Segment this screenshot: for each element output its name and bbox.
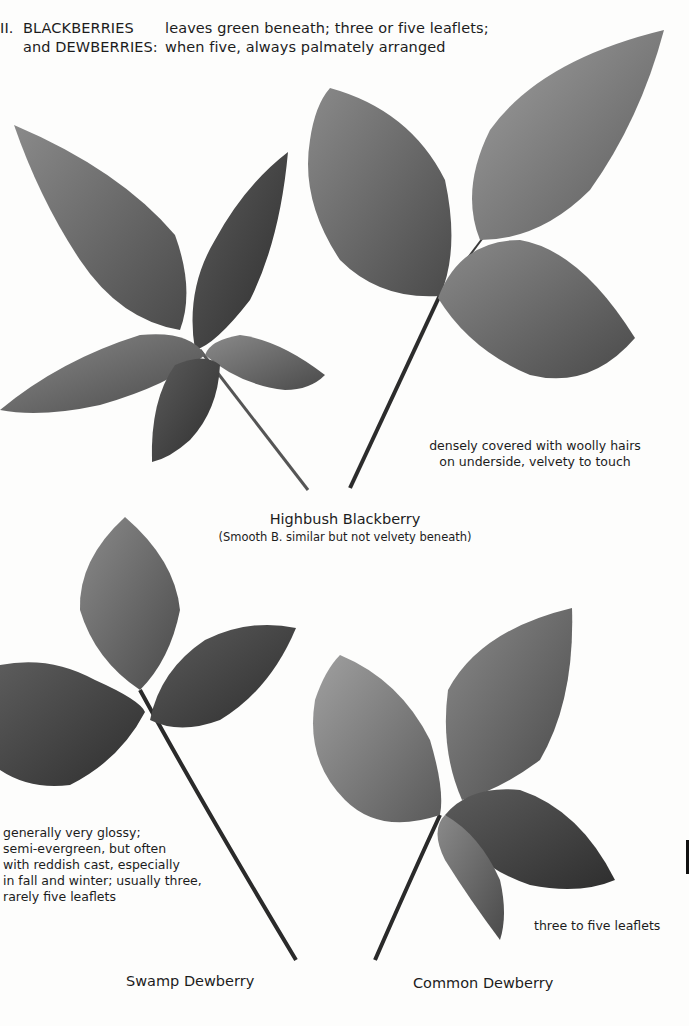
group-title-line1: BLACKBERRIES <box>23 19 134 37</box>
common-dewberry-leaf <box>313 608 615 960</box>
highbush-blackberry-subtitle: (Smooth B. similar but not velvety benea… <box>180 530 510 544</box>
highbush-blackberry-leaf-right <box>308 30 664 488</box>
section-number: II. <box>0 19 13 37</box>
swamp-note-line: with reddish cast, especially <box>3 857 202 873</box>
common-dewberry-note: three to five leaflets <box>534 918 660 934</box>
swamp-note-line: rarely five leaflets <box>3 889 202 905</box>
highbush-blackberry-title: Highbush Blackberry <box>180 511 510 527</box>
group-description-line2: when five, always palmately arranged <box>165 38 446 56</box>
swamp-note-line: semi-evergreen, but often <box>3 841 202 857</box>
group-title-line2: and DEWBERRIES: <box>23 38 158 56</box>
highbush-note: densely covered with woolly hairs on und… <box>425 438 645 470</box>
common-dewberry-title: Common Dewberry <box>413 975 553 991</box>
group-description-line1: leaves green beneath; three or five leaf… <box>165 19 489 37</box>
swamp-note-line: generally very glossy; <box>3 825 202 841</box>
swamp-dewberry-title: Swamp Dewberry <box>126 973 254 989</box>
highbush-blackberry-leaf-left <box>0 125 325 490</box>
highbush-note-line: on underside, velvety to touch <box>425 454 645 470</box>
swamp-note-line: in fall and winter; usually three, <box>3 873 202 889</box>
highbush-note-line: densely covered with woolly hairs <box>425 438 645 454</box>
swamp-dewberry-note: generally very glossy; semi-evergreen, b… <box>3 825 202 905</box>
